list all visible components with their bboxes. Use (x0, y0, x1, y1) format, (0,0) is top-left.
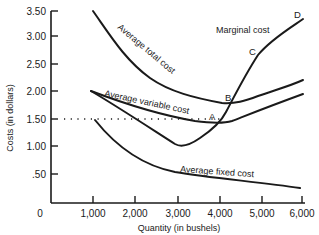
y-tick-labels: 3.50 3.00 2.50 2.00 1.50 1.00 .50 (27, 6, 47, 180)
average-fixed-cost-curve (95, 120, 300, 188)
mc-label: Marginal cost (216, 25, 270, 35)
x-tick-labels: 0 1,000 2,000 3,000 4,000 5,000 6,000 (37, 208, 315, 219)
x-tick-label: 5,000 (249, 208, 274, 219)
y-tick-label: 3.50 (27, 6, 47, 17)
y-tick-marks (51, 11, 58, 174)
y-axis-title: Costs (in dollars) (5, 84, 15, 152)
y-tick-label: .50 (32, 169, 46, 180)
y-tick-label: 1.50 (27, 114, 47, 125)
point-d-label: D (294, 9, 301, 20)
point-b-label: B (225, 92, 231, 103)
axes: 3.50 3.00 2.50 2.00 1.50 1.00 .50 0 1,00… (5, 6, 315, 233)
x-tick-label: 2,000 (122, 208, 147, 219)
x-tick-label: 6,000 (289, 208, 314, 219)
point-c-label: C (249, 46, 256, 57)
x-axis-title: Quantity (in bushels) (138, 223, 221, 233)
cost-curves-chart: 3.50 3.00 2.50 2.00 1.50 1.00 .50 0 1,00… (0, 0, 319, 235)
x-tick-label: 4,000 (207, 208, 232, 219)
marginal-cost-curve (91, 19, 303, 146)
point-a-label: A (209, 111, 216, 122)
x-tick-label: 1,000 (80, 208, 105, 219)
x-tick-label: 0 (37, 208, 43, 219)
x-tick-marks (93, 196, 302, 203)
y-tick-label: 1.00 (27, 141, 47, 152)
atc-label: Average total cost (116, 22, 178, 76)
y-tick-label: 3.00 (27, 31, 47, 42)
y-tick-label: 2.00 (27, 86, 47, 97)
x-tick-label: 3,000 (165, 208, 190, 219)
y-tick-label: 2.50 (27, 59, 47, 70)
